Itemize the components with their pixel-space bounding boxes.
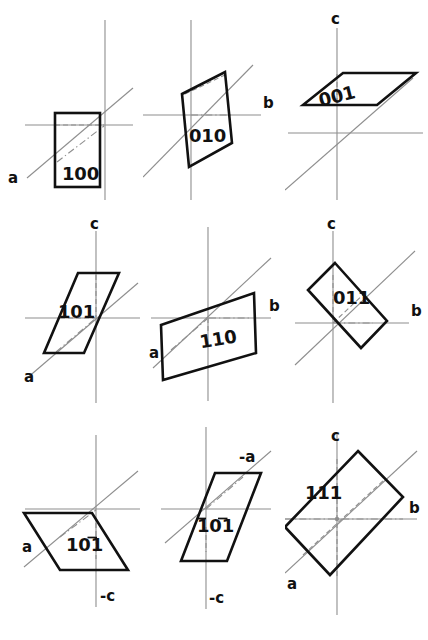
axis-label-minus-a: -a	[239, 448, 255, 466]
panel-grid: a 100 b	[0, 0, 428, 640]
plane-index-label-101: 101	[58, 301, 95, 322]
index-digit-2: 1	[346, 287, 358, 308]
plane-index-label-10-1: 101	[66, 534, 103, 555]
index-digit-1: 1	[58, 301, 70, 322]
axis-label-c: c	[331, 10, 340, 28]
origin-point	[335, 516, 339, 520]
index-digit-2: 1	[201, 125, 213, 146]
svg-text:010: 010	[189, 125, 226, 146]
svg-text:110: 110	[198, 326, 238, 353]
axis-label-c: c	[90, 215, 99, 233]
axis-label-a: a	[149, 344, 159, 362]
index-digit-3: 1	[83, 301, 95, 322]
panel-001: c 001	[285, 0, 428, 213]
panel-010: b 010	[143, 0, 286, 213]
svg-text:011: 011	[333, 287, 370, 308]
index-digit-3: 1	[330, 482, 342, 503]
svg-text:100: 100	[62, 163, 99, 184]
index-digit-3: 0	[222, 326, 237, 349]
plane-index-label-011: 011	[333, 287, 370, 308]
panel-10-1: a -c 101	[0, 427, 143, 640]
plane-index-label-110: 110	[198, 326, 238, 353]
index-digit-2: 0	[70, 301, 82, 322]
axis-label-b: b	[411, 302, 422, 320]
svg-text:101: 101	[66, 534, 103, 555]
miller-index-figure: a 100 b	[0, 0, 428, 640]
plane-index-label-100: 100	[62, 163, 99, 184]
a-axis-line	[153, 258, 271, 368]
panel-100: a 100	[0, 0, 143, 213]
index-digit-1: 1	[62, 163, 74, 184]
a-axis-line	[285, 451, 417, 573]
index-digit-3: 1	[358, 287, 370, 308]
axis-label-a: a	[22, 538, 32, 556]
axis-label-minus-c: -c	[209, 589, 224, 607]
a-axis-line	[26, 283, 138, 379]
index-digit-1: 1	[66, 534, 78, 555]
panel--10-1: -a -c 101	[143, 427, 286, 640]
a-axis-hidden-segment	[56, 319, 95, 352]
index-digit-1: 0	[333, 287, 345, 308]
index-digit-1: 0	[189, 125, 201, 146]
axis-label-a: a	[24, 368, 34, 386]
a-axis-hidden-segment	[57, 126, 104, 162]
axis-label-a: a	[8, 169, 18, 187]
panel-101: c a 101	[0, 213, 143, 426]
axis-label-b: b	[269, 297, 280, 315]
a-axis-line	[143, 65, 253, 177]
axis-label-b: b	[409, 499, 420, 517]
index-digit-1: 1	[305, 482, 317, 503]
plane-index-label-010: 010	[189, 125, 226, 146]
axis-label-minus-c: -c	[100, 587, 115, 605]
panel-111: c b a 111	[285, 427, 428, 640]
axis-label-c: c	[331, 427, 340, 445]
plane-outline-010	[182, 72, 232, 167]
index-digit-3: 0	[87, 163, 99, 184]
panel-110: b a 110	[143, 213, 286, 426]
axis-label-c: c	[327, 215, 336, 233]
panel-011: c b 011	[285, 213, 428, 426]
index-digit-3: 0	[213, 125, 225, 146]
index-digit-2: 1	[318, 482, 330, 503]
svg-text:101: 101	[58, 301, 95, 322]
plane-index-label--10-1: 101	[197, 515, 234, 536]
svg-text:111: 111	[305, 482, 342, 503]
axis-label-b: b	[263, 94, 274, 112]
index-digit-2: 0	[74, 163, 86, 184]
axis-label-a: a	[287, 575, 297, 593]
plane-index-label-111: 111	[305, 482, 342, 503]
